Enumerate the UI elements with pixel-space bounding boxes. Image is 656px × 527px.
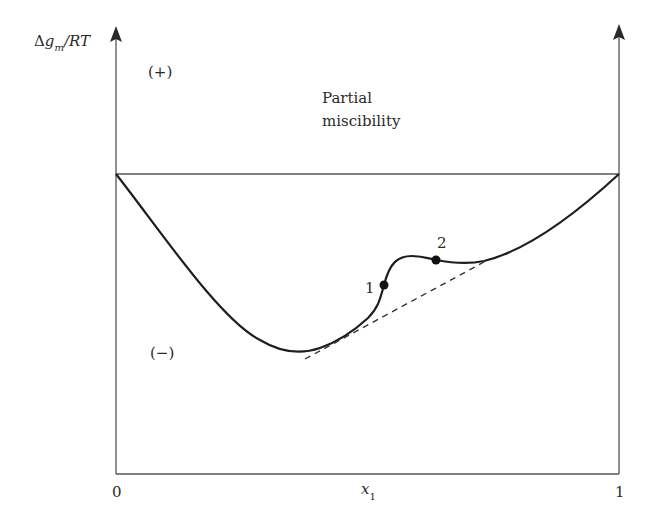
y-axis-label-suffix: /RT	[62, 32, 91, 50]
negative-region-label: (−)	[150, 344, 174, 362]
positive-region-label: (+)	[148, 63, 172, 81]
annotation-partial: Partial	[322, 89, 372, 107]
x-axis-label: x1	[361, 480, 376, 502]
point-1-marker	[380, 281, 389, 290]
point-2-label: 2	[437, 234, 447, 252]
x-tick-0: 0	[112, 483, 122, 501]
annotation-miscibility: miscibility	[322, 112, 401, 130]
y-axis-label-prefix: Δ	[34, 32, 45, 50]
y-axis-label: Δgm/RT	[34, 32, 91, 53]
miscibility-diagram: 1 2 Δgm/RT (+) (−) Partial miscibility 0…	[0, 0, 656, 527]
common-tangent-line	[305, 262, 484, 359]
point-1-label: 1	[365, 279, 375, 297]
point-2-marker	[432, 256, 441, 265]
diagram-canvas: 1 2 Δgm/RT (+) (−) Partial miscibility 0…	[0, 0, 656, 527]
y-axis-label-var: g	[45, 32, 55, 50]
x-axis-label-sub: 1	[369, 491, 375, 502]
y-axis-label-sub: m	[54, 42, 63, 53]
x-tick-1: 1	[615, 483, 625, 501]
